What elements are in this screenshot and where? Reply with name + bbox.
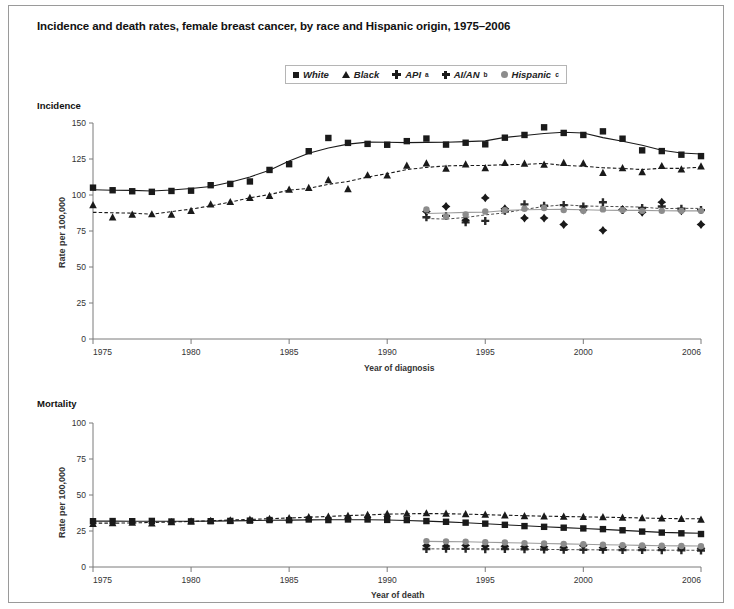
data-point-black bbox=[599, 169, 607, 176]
data-point-black bbox=[128, 211, 136, 218]
data-point-hispanic bbox=[482, 539, 488, 545]
svg-text:0: 0 bbox=[81, 334, 86, 344]
data-point-white bbox=[639, 147, 645, 153]
data-point-white bbox=[443, 519, 449, 525]
data-point-white bbox=[423, 135, 429, 141]
svg-text:150: 150 bbox=[72, 118, 86, 128]
data-point-white bbox=[207, 182, 213, 188]
data-point-hispanic bbox=[443, 538, 449, 544]
svg-text:50: 50 bbox=[77, 262, 87, 272]
data-point-white bbox=[619, 527, 625, 533]
data-point-hispanic bbox=[443, 213, 449, 219]
data-point-white bbox=[227, 181, 233, 187]
data-point-black bbox=[501, 511, 509, 518]
svg-text:75: 75 bbox=[77, 226, 87, 236]
data-point-hispanic bbox=[502, 207, 508, 213]
svg-text:1995: 1995 bbox=[476, 575, 495, 585]
data-point-hispanic bbox=[659, 542, 665, 548]
data-point-black bbox=[638, 514, 646, 521]
svg-text:0: 0 bbox=[81, 562, 86, 572]
data-point-black bbox=[462, 510, 470, 517]
data-point-black bbox=[638, 168, 646, 175]
data-point-white bbox=[482, 520, 488, 526]
data-point-white bbox=[600, 128, 606, 134]
data-point-black bbox=[285, 186, 293, 193]
data-point-white bbox=[247, 178, 253, 184]
data-point-white bbox=[659, 148, 665, 154]
trend-line-black bbox=[93, 514, 701, 524]
svg-text:1990: 1990 bbox=[378, 347, 397, 357]
data-point-api bbox=[599, 198, 607, 206]
data-point-hispanic bbox=[580, 541, 586, 547]
data-point-black bbox=[325, 176, 333, 183]
data-point-white bbox=[502, 522, 508, 528]
data-point-hispanic bbox=[619, 542, 625, 548]
data-point-white bbox=[482, 141, 488, 147]
data-point-white bbox=[266, 167, 272, 173]
data-point-white bbox=[364, 141, 370, 147]
data-point-hispanic bbox=[502, 539, 508, 545]
data-point-hispanic bbox=[639, 542, 645, 548]
data-point-hispanic bbox=[678, 208, 684, 214]
data-point-hispanic bbox=[698, 543, 704, 549]
data-point-white bbox=[384, 142, 390, 148]
svg-text:2006: 2006 bbox=[682, 575, 701, 585]
data-point-white bbox=[561, 524, 567, 530]
data-point-black bbox=[109, 213, 117, 220]
svg-text:1990: 1990 bbox=[378, 575, 397, 585]
data-point-black bbox=[619, 164, 627, 171]
incidence-plot: 0255075100125150197519801985199019952000… bbox=[9, 6, 725, 604]
data-point-white bbox=[345, 140, 351, 146]
data-point-hispanic bbox=[462, 539, 468, 545]
data-point-hispanic bbox=[521, 540, 527, 546]
svg-text:1985: 1985 bbox=[280, 347, 299, 357]
data-point-white bbox=[698, 153, 704, 159]
data-point-black bbox=[207, 200, 215, 207]
data-point-white bbox=[659, 529, 665, 535]
svg-text:125: 125 bbox=[72, 154, 86, 164]
data-point-black bbox=[187, 207, 195, 214]
data-point-black bbox=[148, 210, 156, 217]
svg-text:75: 75 bbox=[77, 454, 87, 464]
data-point-black bbox=[383, 510, 391, 517]
data-point-white bbox=[561, 130, 567, 136]
data-point-hispanic bbox=[639, 208, 645, 214]
svg-text:100: 100 bbox=[72, 190, 86, 200]
svg-text:100: 100 bbox=[72, 418, 86, 428]
data-point-white bbox=[168, 188, 174, 194]
data-point-white bbox=[580, 525, 586, 531]
svg-text:2000: 2000 bbox=[574, 575, 593, 585]
data-point-white bbox=[698, 531, 704, 537]
data-point-hispanic bbox=[423, 538, 429, 544]
data-point-hispanic bbox=[521, 205, 527, 211]
data-point-black bbox=[423, 509, 431, 516]
data-point-black bbox=[403, 161, 411, 168]
data-point-white bbox=[541, 124, 547, 130]
data-point-white bbox=[109, 187, 115, 193]
data-point-white bbox=[462, 140, 468, 146]
data-point-white bbox=[306, 148, 312, 154]
data-point-hispanic bbox=[541, 540, 547, 546]
data-point-hispanic bbox=[423, 206, 429, 212]
data-point-black bbox=[364, 511, 372, 518]
data-point-black bbox=[403, 509, 411, 516]
data-point-white bbox=[521, 523, 527, 529]
data-point-aian bbox=[442, 202, 451, 211]
data-point-hispanic bbox=[619, 207, 625, 213]
data-point-black bbox=[266, 192, 274, 199]
svg-text:1980: 1980 bbox=[182, 575, 201, 585]
data-point-hispanic bbox=[482, 208, 488, 214]
data-point-white bbox=[286, 161, 292, 167]
data-point-hispanic bbox=[678, 543, 684, 549]
data-point-aian bbox=[540, 214, 549, 223]
data-point-black bbox=[462, 160, 470, 167]
data-point-aian bbox=[481, 193, 490, 202]
data-point-hispanic bbox=[541, 205, 547, 211]
data-point-hispanic bbox=[698, 208, 704, 214]
data-point-black bbox=[344, 185, 352, 192]
svg-text:25: 25 bbox=[77, 526, 87, 536]
svg-text:50: 50 bbox=[77, 490, 87, 500]
data-point-white bbox=[188, 187, 194, 193]
data-point-white bbox=[462, 519, 468, 525]
data-point-aian bbox=[657, 198, 666, 207]
